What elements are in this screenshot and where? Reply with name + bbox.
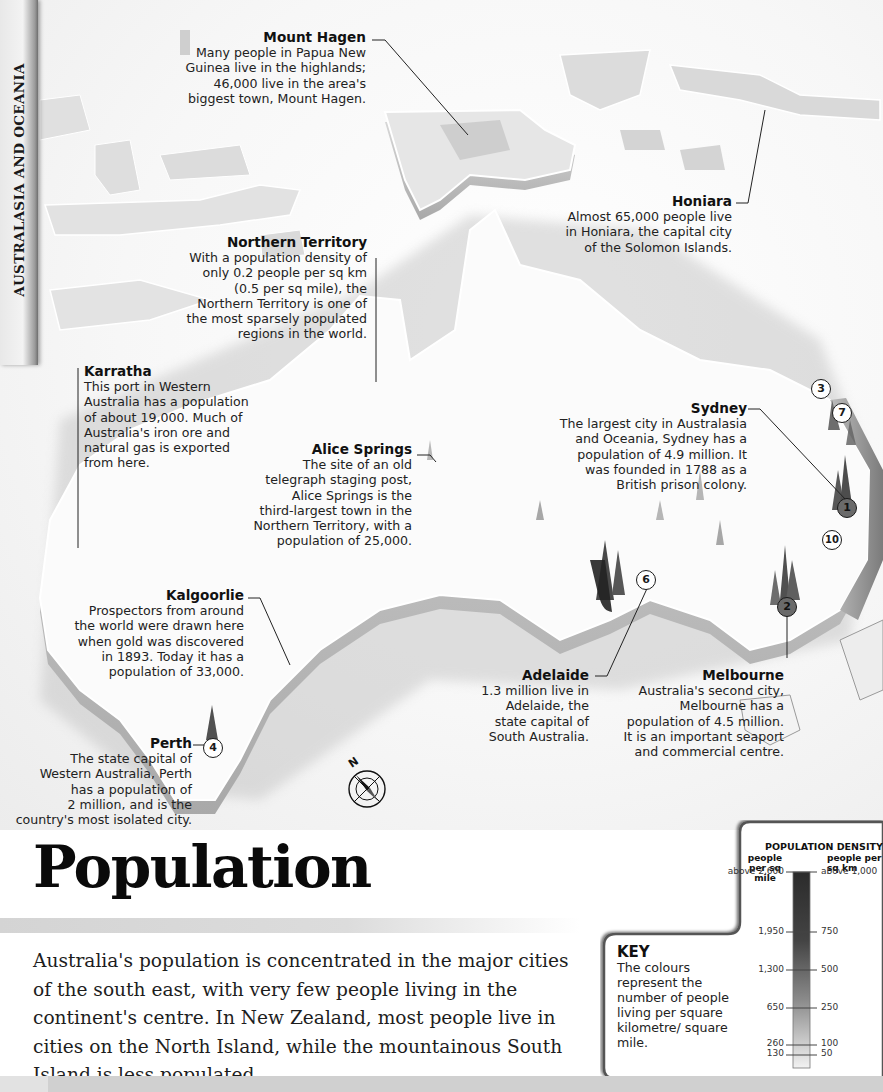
callout-title: Northern Territory — [187, 235, 367, 250]
key-heading: KEY — [617, 945, 737, 960]
key-right-tick: 250 — [821, 1002, 838, 1012]
callout-honiara: Honiara Almost 65,000 people live in Hon… — [565, 194, 732, 255]
key-left-tick: 130 — [767, 1048, 784, 1058]
key-left-tick: 1,950 — [758, 926, 784, 936]
section-tab: AUSTRALASIA AND OCEANIA — [0, 0, 38, 365]
page-title: Population — [33, 834, 371, 900]
callout-title: Honiara — [565, 194, 732, 209]
key-left-tick: 650 — [767, 1002, 784, 1012]
compass-rose: N — [342, 755, 392, 814]
callout-body: With a population density of only 0.2 pe… — [187, 250, 367, 341]
callout-karratha: Karratha This port in Western Australia … — [84, 364, 249, 470]
key-scale-title: POPULATION DENSITY — [765, 841, 883, 852]
compass-icon: N — [342, 755, 392, 810]
callout-body: Australia's second city, Melbourne has a… — [624, 683, 784, 759]
callout-sydney: Sydney The largest city in Australasia a… — [560, 401, 747, 492]
callout-kalgoorlie: Kalgoorlie Prospectors from around the w… — [74, 588, 244, 679]
callout-adelaide: Adelaide 1.3 million live in Adelaide, t… — [481, 668, 589, 744]
title-underline-bar — [0, 918, 580, 933]
rank-marker-3: 3 — [811, 379, 831, 399]
callout-title: Alice Springs — [253, 442, 412, 457]
key-right-tick: above 1,000 — [821, 866, 877, 876]
callout-body: This port in Western Australia has a pop… — [84, 379, 249, 470]
callout-title: Adelaide — [481, 668, 589, 683]
key-left-tick: 1,300 — [758, 964, 784, 974]
callout-title: Mount Hagen — [185, 30, 366, 45]
rank-marker-4: 4 — [203, 738, 223, 758]
key-text: KEY The colours represent the number of … — [617, 945, 737, 1050]
callout-title: Kalgoorlie — [74, 588, 244, 603]
population-map: AUSTRALASIA AND OCEANIA Mount Hagen Many… — [0, 0, 883, 830]
key-right-tick: 100 — [821, 1038, 838, 1048]
section-tab-label: AUSTRALASIA AND OCEANIA — [11, 63, 27, 296]
key-right-tick: 50 — [821, 1048, 832, 1058]
callout-body: Almost 65,000 people live in Honiara, th… — [565, 209, 732, 255]
rank-marker-10: 10 — [822, 530, 842, 550]
key-left-tick: 260 — [767, 1038, 784, 1048]
callout-body: The site of an old telegraph staging pos… — [253, 457, 412, 548]
density-key: POPULATION DENSITY people per sq mile pe… — [600, 820, 883, 1082]
callout-perth: Perth The state capital of Western Austr… — [16, 736, 192, 827]
key-left-tick: above 2,600 — [728, 866, 784, 876]
callout-northern-territory: Northern Territory With a population den… — [187, 235, 367, 341]
callout-body: 1.3 million live in Adelaide, the state … — [481, 683, 589, 744]
rank-marker-6: 6 — [636, 570, 656, 590]
rank-marker-1: 1 — [837, 498, 857, 518]
key-description: The colours represent the number of peop… — [617, 960, 729, 1050]
callout-title: Perth — [16, 736, 192, 751]
callout-body: The largest city in Australasia and Ocea… — [560, 416, 747, 492]
key-right-tick: 750 — [821, 926, 838, 936]
rank-marker-2: 2 — [777, 597, 797, 617]
callout-title: Melbourne — [624, 668, 784, 683]
callout-title: Sydney — [560, 401, 747, 416]
callout-body: The state capital of Western Australia, … — [16, 751, 192, 827]
callout-mount-hagen: Mount Hagen Many people in Papua New Gui… — [185, 30, 366, 106]
bottom-band — [0, 1076, 883, 1092]
callout-title: Karratha — [84, 364, 249, 379]
rank-marker-7: 7 — [832, 403, 852, 423]
callout-body: Prospectors from around the world were d… — [74, 603, 244, 679]
key-right-tick: 500 — [821, 964, 838, 974]
intro-paragraph: Australia's population is concentrated i… — [33, 947, 573, 1090]
callout-body: Many people in Papua New Guinea live in … — [185, 45, 366, 106]
compass-north-label: N — [346, 755, 361, 770]
callout-melbourne: Melbourne Australia's second city, Melbo… — [624, 668, 784, 759]
callout-alice-springs: Alice Springs The site of an old telegra… — [253, 442, 412, 548]
